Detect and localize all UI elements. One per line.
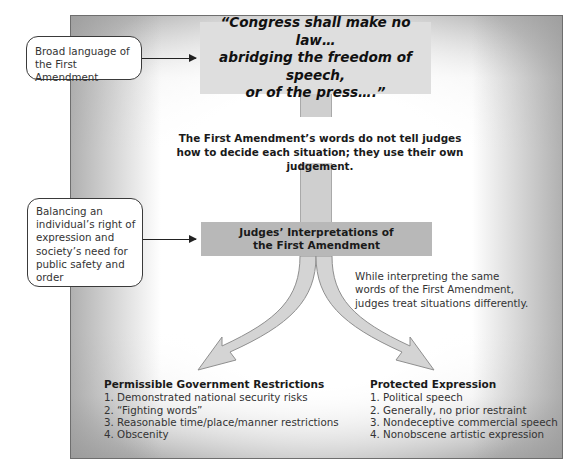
callout-line: expression and bbox=[36, 231, 136, 244]
quote-line: or of the press….” bbox=[200, 84, 431, 102]
callout-line: the First Amendment bbox=[35, 58, 135, 84]
note-line: how to decide each situation; they use t… bbox=[160, 145, 480, 173]
outcome-title: Protected Expression bbox=[370, 378, 560, 390]
callout-broad-language: Broad language of the First Amendment bbox=[26, 36, 142, 80]
judgement-note: The First Amendment’s words do not tell … bbox=[160, 131, 480, 173]
callout-line: Broad language of bbox=[35, 45, 135, 58]
list-item: 2. Generally, no prior restraint bbox=[370, 404, 560, 416]
list-item: 1. Political speech bbox=[370, 391, 560, 403]
list-item: 1. Demonstrated national security risks bbox=[104, 391, 344, 403]
arrow-right-icon bbox=[143, 239, 196, 240]
arrow-right-icon bbox=[142, 58, 196, 59]
judges-interpretations-box: Judges’ Interpretations of the First Ame… bbox=[201, 222, 432, 256]
outcome-title: Permissible Government Restrictions bbox=[104, 378, 344, 390]
permissible-restrictions-list: Permissible Government Restrictions 1. D… bbox=[104, 378, 344, 440]
callout-balancing: Balancing an individual’s right of expre… bbox=[27, 198, 143, 287]
callout-line: order bbox=[36, 271, 136, 284]
list-item: 4. Nonobscene artistic expression bbox=[370, 428, 560, 440]
list-item: 3. Nondeceptive commercial speech bbox=[370, 416, 560, 428]
first-amendment-quote-box: “Congress shall make no law… abridging t… bbox=[200, 22, 431, 94]
list-item: 4. Obscenity bbox=[104, 428, 344, 440]
note-line: judges treat situations differently. bbox=[355, 297, 555, 310]
note-line: words of the First Amendment, bbox=[355, 283, 555, 296]
judges-line: the First Amendment bbox=[239, 239, 393, 253]
judges-line: Judges’ Interpretations of bbox=[239, 226, 393, 240]
note-line: While interpreting the same bbox=[355, 270, 555, 283]
protected-expression-list: Protected Expression 1. Political speech… bbox=[370, 378, 560, 440]
left-branch-arrow-icon bbox=[198, 256, 316, 370]
callout-line: society’s need for bbox=[36, 245, 136, 258]
interpretation-note: While interpreting the same words of the… bbox=[355, 270, 555, 310]
note-line: The First Amendment’s words do not tell … bbox=[160, 131, 480, 145]
quote-line: “Congress shall make no law… bbox=[200, 14, 431, 49]
callout-line: Balancing an bbox=[36, 205, 136, 218]
callout-line: public safety and bbox=[36, 258, 136, 271]
quote-line: abridging the freedom of speech, bbox=[200, 49, 431, 84]
callout-line: individual’s right of bbox=[36, 218, 136, 231]
list-item: 3. Reasonable time/place/manner restrict… bbox=[104, 416, 344, 428]
list-item: 2. “Fighting words” bbox=[104, 404, 344, 416]
